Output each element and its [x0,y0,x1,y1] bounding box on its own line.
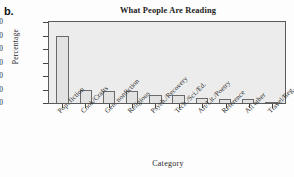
bar-slot [260,22,283,103]
chart-title: What People Are Reading [48,6,288,15]
bar-slot [51,22,74,103]
y-axis-label: Percentage [11,19,20,75]
y-tick-label: 40 [0,45,3,52]
y-tick-label: 30 [0,59,3,66]
y-tick-label: 10 [0,86,3,93]
y-tick-label: 0 [0,99,3,106]
panel-letter: b. [4,5,13,17]
y-tick-label: 20 [0,72,3,79]
figure-container: b. What People Are Reading Percentage 01… [0,0,294,177]
x-axis-label: Category [48,159,288,168]
y-tick-label: 50 [0,32,3,39]
y-tick-label: 60 [0,18,3,25]
bar [56,36,69,104]
